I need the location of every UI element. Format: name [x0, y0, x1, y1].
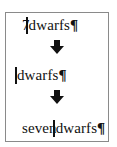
figure-frame: 7dwarfs¶ dwarfs¶ sevendwarfs¶ [5, 12, 109, 142]
pilcrow-icon: ¶ [58, 67, 66, 83]
pilcrow-icon: ¶ [97, 120, 105, 136]
step-2-after-cursor: dwarfs [17, 67, 58, 83]
down-arrow-icon [50, 40, 64, 54]
down-arrow-icon [50, 90, 64, 104]
pilcrow-icon: ¶ [70, 17, 78, 33]
step-3-text: sevendwarfs¶ [22, 120, 105, 137]
step-2-text: dwarfs¶ [14, 67, 67, 84]
step-3-before-cursor: seven [22, 120, 57, 136]
step-1-after-cursor: dwarfs [29, 17, 70, 33]
step-1-text: 7dwarfs¶ [22, 17, 78, 34]
step-3-after-cursor: dwarfs [56, 120, 97, 136]
text-cursor-icon [26, 17, 28, 34]
text-cursor-icon [53, 120, 55, 137]
